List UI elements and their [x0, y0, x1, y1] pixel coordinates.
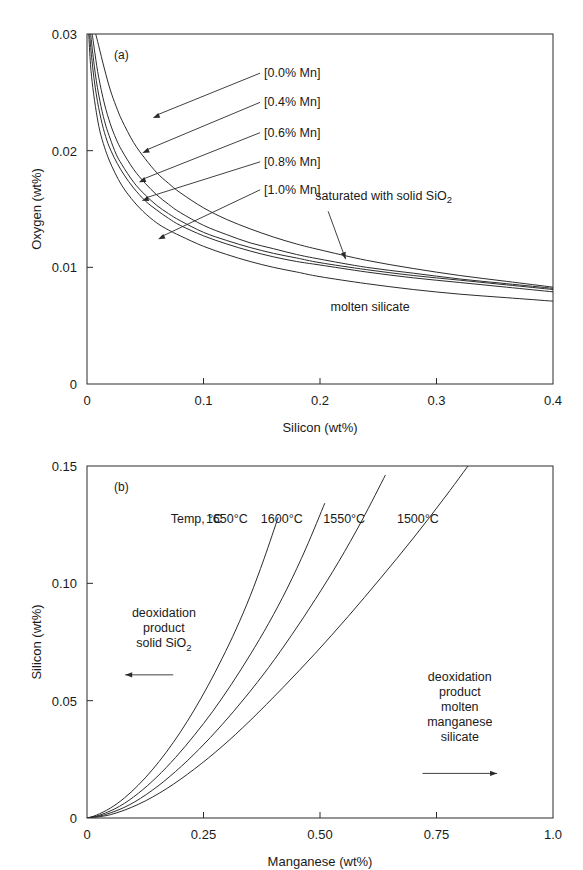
curve-1 [87, 504, 325, 818]
curve-label-0: 1650°C [206, 512, 248, 526]
series-leader-2 [143, 133, 260, 180]
x-tick-label: 0.50 [307, 827, 332, 842]
panel-label: (b) [114, 480, 129, 494]
x-tick-label: 0.75 [424, 827, 449, 842]
y-tick-label: 0 [70, 377, 77, 392]
annotation-deoxidation-product-solid-sio2: deoxidationproductsolid SiO2 [132, 606, 196, 653]
x-tick-label: 0.3 [427, 393, 445, 408]
curve-label-3: 1500°C [397, 512, 439, 526]
x-axis-title: Manganese (wt%) [268, 854, 373, 869]
curve-2 [87, 475, 385, 818]
panel-label: (a) [114, 48, 129, 62]
y-tick-label: 0.02 [52, 144, 77, 159]
y-tick-label: 0.10 [52, 576, 77, 591]
series-label-0: [0.0% Mn] [264, 66, 320, 80]
curves-group [89, 34, 553, 301]
series-leader-3 [146, 162, 260, 198]
x-tick-label: 0.2 [311, 393, 329, 408]
y-tick-label: 0.03 [52, 27, 77, 42]
panel-a-svg: 00.10.20.30.400.010.020.03Silicon (wt%)O… [0, 0, 583, 440]
x-tick-label: 0 [83, 827, 90, 842]
annotation-arrowhead-saturated-with-solid-sio2 [341, 252, 346, 259]
series-label-4: [1.0% Mn] [264, 183, 320, 197]
x-tick-label: 0.25 [191, 827, 216, 842]
y-tick-label: 0.15 [52, 459, 77, 474]
panel-b-svg: 00.250.500.751.000.050.100.15Manganese (… [0, 432, 583, 870]
series-leader-1 [146, 102, 260, 150]
annotation-arrowhead-deoxidation-product-molten-manganese-silicate [490, 771, 497, 776]
series-leader-4 [162, 190, 260, 237]
curve-3 [90, 34, 553, 292]
curve-0 [96, 34, 553, 287]
y-axis-title: Oxygen (wt%) [29, 168, 44, 250]
annotation-deoxidation-product-molten-manganese-silicate: deoxidationproductmoltenmanganesesilicat… [427, 670, 492, 744]
y-axis-title: Silicon (wt%) [29, 604, 44, 679]
series-label-3: [0.8% Mn] [264, 155, 320, 169]
series-label-2: [0.6% Mn] [264, 126, 320, 140]
y-tick-label: 0.05 [52, 694, 77, 709]
curve-4 [89, 34, 553, 301]
series-label-1: [0.4% Mn] [264, 95, 320, 109]
x-tick-label: 1.0 [544, 827, 562, 842]
annotation-arrowhead-deoxidation-product-solid-sio2 [125, 672, 132, 677]
chart-panel-b: 00.250.500.751.000.050.100.15Manganese (… [0, 432, 583, 870]
curve-0 [87, 518, 278, 818]
chart-panel-a: 00.10.20.30.400.010.020.03Silicon (wt%)O… [0, 0, 583, 440]
y-tick-label: 0 [70, 811, 77, 826]
plot-frame [87, 34, 553, 384]
y-tick-label: 0.01 [52, 260, 77, 275]
annotation-saturated-with-solid-sio2: saturated with solid SiO2 [315, 189, 452, 206]
curve-label-2: 1550°C [323, 512, 365, 526]
x-tick-label: 0.4 [544, 393, 562, 408]
curve-label-1: 1600°C [261, 512, 303, 526]
annotation-molten-silicate: molten silicate [330, 300, 409, 314]
x-tick-label: 0.1 [194, 393, 212, 408]
curve-2 [91, 34, 553, 290]
figure-container: 00.10.20.30.400.010.020.03Silicon (wt%)O… [0, 0, 583, 870]
x-tick-label: 0 [83, 393, 90, 408]
